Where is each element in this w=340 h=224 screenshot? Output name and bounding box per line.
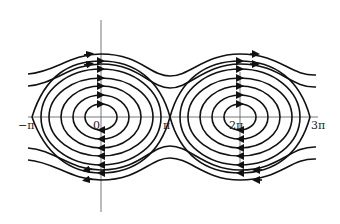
orbit xyxy=(85,104,101,117)
tick-label-0: 0 xyxy=(93,120,100,131)
orbit xyxy=(73,95,101,117)
tick-label-pi: π xyxy=(163,120,170,131)
phase-portrait xyxy=(0,0,340,224)
tick-label-3pi: 3π xyxy=(311,120,325,131)
tick-label-neg-pi: −π xyxy=(18,120,34,131)
orbit xyxy=(224,104,240,117)
axes xyxy=(28,20,318,212)
tick-label-2pi: 2π xyxy=(229,120,243,131)
orbit xyxy=(212,95,240,117)
rotating-orbit xyxy=(28,54,316,76)
